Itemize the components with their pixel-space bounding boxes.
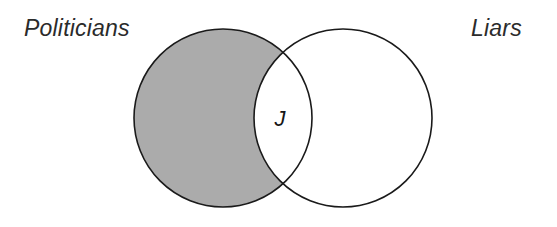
- venn-diagram-figure: J Politicians Liars: [0, 0, 557, 227]
- set-label-politicians: Politicians: [24, 17, 130, 40]
- set-label-liars: Liars: [471, 17, 522, 40]
- intersection-marker-label: J: [274, 106, 287, 131]
